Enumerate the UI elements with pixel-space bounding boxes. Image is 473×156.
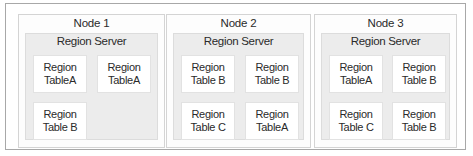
region-server: Region Server Region TableA Region Table… [321, 33, 450, 140]
region-box: Region Table B [392, 55, 446, 93]
region-box: Region TableA [33, 55, 87, 93]
region-label: Region [182, 61, 234, 74]
region-box: Region Table B [245, 55, 299, 93]
region-table: Table B [393, 74, 445, 87]
region-box: Region TableA [329, 55, 383, 93]
region-table: TableA [98, 74, 150, 87]
region-server-title: Region Server [174, 35, 303, 47]
node-2: Node 2 Region Server Region Table B Regi… [166, 14, 311, 148]
region-table: Table B [34, 121, 86, 134]
region-table: Table C [330, 121, 382, 134]
cluster-frame: Node 1 Region Server Region TableA Regio… [5, 3, 466, 150]
region-box: Region Table B [181, 55, 235, 93]
region-label: Region [393, 108, 445, 121]
region-table: TableA [246, 121, 298, 134]
node-title: Node 3 [315, 17, 456, 29]
region-table: Table B [246, 74, 298, 87]
region-label: Region [246, 61, 298, 74]
region-box: Region Table C [329, 102, 383, 140]
region-server-title: Region Server [26, 35, 157, 47]
region-label: Region [182, 108, 234, 121]
region-server: Region Server Region TableA Region Table… [25, 33, 158, 140]
region-server-title: Region Server [322, 35, 449, 47]
region-box: Region TableA [245, 102, 299, 140]
region-box: Region TableA [97, 55, 151, 93]
region-label: Region [393, 61, 445, 74]
region-label: Region [330, 108, 382, 121]
region-label: Region [34, 61, 86, 74]
region-box: Region Table C [181, 102, 235, 140]
region-table: Table C [182, 121, 234, 134]
region-box: Region Table B [33, 102, 87, 140]
region-table: Table B [182, 74, 234, 87]
region-table: TableA [34, 74, 86, 87]
region-server: Region Server Region Table B Region Tabl… [173, 33, 304, 140]
region-label: Region [246, 108, 298, 121]
region-label: Region [330, 61, 382, 74]
region-box: Region Table B [392, 102, 446, 140]
node-3: Node 3 Region Server Region TableA Regio… [314, 14, 457, 148]
node-title: Node 1 [19, 17, 164, 29]
region-label: Region [98, 61, 150, 74]
region-table: TableA [330, 74, 382, 87]
region-table: Table B [393, 121, 445, 134]
node-title: Node 2 [167, 17, 310, 29]
node-1: Node 1 Region Server Region TableA Regio… [18, 14, 165, 148]
region-label: Region [34, 108, 86, 121]
